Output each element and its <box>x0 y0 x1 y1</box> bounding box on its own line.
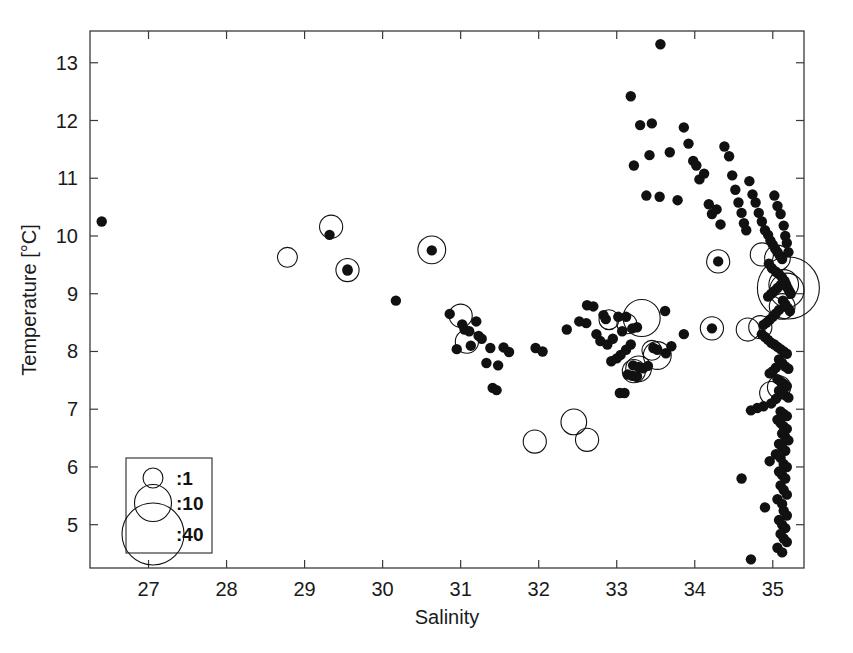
y-tick-label: 6 <box>67 456 78 478</box>
data-point <box>601 314 611 324</box>
data-point <box>713 256 723 266</box>
size-legend: :1:10:40 <box>122 458 212 565</box>
data-point <box>464 326 474 336</box>
x-tick-label: 31 <box>450 578 472 600</box>
y-tick-label: 7 <box>67 398 78 420</box>
data-point <box>783 364 793 374</box>
scatter-plot-figure: 272829303132333435 5678910111213 :1:10:4… <box>0 0 853 653</box>
data-point <box>608 334 618 344</box>
data-point <box>342 264 352 274</box>
data-point <box>683 138 693 148</box>
data-point <box>733 197 743 207</box>
x-axis-tick-labels: 272829303132333435 <box>137 578 784 600</box>
data-point <box>504 347 514 357</box>
x-axis-title: Salinity <box>415 606 479 628</box>
data-point <box>724 151 734 161</box>
data-point <box>493 360 503 370</box>
data-point <box>644 150 654 160</box>
data-point <box>655 39 665 49</box>
data-point <box>654 192 664 202</box>
x-tick-label: 33 <box>606 578 628 600</box>
y-tick-label: 8 <box>67 340 78 362</box>
data-point <box>775 209 785 219</box>
data-point <box>562 324 572 334</box>
data-point <box>782 489 792 499</box>
data-point <box>758 320 768 330</box>
data-point <box>617 326 627 336</box>
data-point <box>485 343 495 353</box>
data-point <box>606 356 616 366</box>
data-point <box>699 168 709 178</box>
data-point <box>619 388 629 398</box>
data-point <box>783 392 793 402</box>
data-point <box>632 322 642 332</box>
y-tick-label: 10 <box>56 225 78 247</box>
data-point <box>477 334 487 344</box>
data-point <box>711 204 721 214</box>
x-tick-label: 32 <box>528 578 550 600</box>
data-point <box>727 170 737 180</box>
data-point <box>660 306 670 316</box>
plot-canvas: 272829303132333435 5678910111213 :1:10:4… <box>0 0 853 653</box>
data-point <box>777 547 787 557</box>
data-point <box>491 385 501 395</box>
legend-label-10: :10 <box>176 493 203 514</box>
data-point <box>537 346 547 356</box>
data-point <box>665 147 675 157</box>
data-point <box>764 456 774 466</box>
data-point <box>635 120 645 130</box>
data-point <box>779 220 789 230</box>
y-tick-label: 11 <box>57 167 78 189</box>
x-tick-label: 35 <box>762 578 784 600</box>
x-tick-label: 28 <box>215 578 237 600</box>
data-point <box>707 323 717 333</box>
data-point <box>97 216 107 226</box>
data-point <box>736 473 746 483</box>
data-point <box>632 371 642 381</box>
y-axis-title: Temperature [°C] <box>18 224 40 375</box>
data-point <box>324 230 334 240</box>
data-point <box>782 238 792 248</box>
x-tick-label: 27 <box>137 578 159 600</box>
data-point <box>782 537 792 547</box>
data-point <box>445 309 455 319</box>
data-point <box>427 245 437 255</box>
data-point <box>629 160 639 170</box>
figure-background <box>0 0 853 653</box>
legend-label-1: :1 <box>176 468 193 489</box>
data-point <box>666 341 676 351</box>
data-point <box>746 554 756 564</box>
y-tick-label: 5 <box>67 514 78 536</box>
data-point <box>391 295 401 305</box>
data-point <box>744 176 754 186</box>
data-point <box>769 190 779 200</box>
data-point <box>647 118 657 128</box>
data-point <box>736 208 746 218</box>
data-point <box>730 185 740 195</box>
data-point <box>746 405 756 415</box>
data-point <box>588 301 598 311</box>
data-point <box>621 312 631 322</box>
data-point <box>471 316 481 326</box>
data-point <box>481 358 491 368</box>
data-point <box>679 122 689 132</box>
data-point <box>786 289 796 299</box>
data-point <box>466 340 476 350</box>
data-point <box>691 160 701 170</box>
x-tick-label: 29 <box>293 578 315 600</box>
data-point <box>626 91 636 101</box>
data-point <box>719 141 729 151</box>
data-point <box>641 190 651 200</box>
data-point <box>452 344 462 354</box>
y-tick-label: 9 <box>67 283 78 305</box>
data-point <box>672 195 682 205</box>
data-point <box>741 225 751 235</box>
data-point <box>750 197 760 207</box>
data-point <box>715 219 725 229</box>
data-point <box>760 502 770 512</box>
y-tick-label: 13 <box>56 52 78 74</box>
data-point <box>643 361 653 371</box>
legend-label-40: :40 <box>176 524 203 545</box>
x-tick-label: 34 <box>684 578 706 600</box>
data-point <box>679 329 689 339</box>
